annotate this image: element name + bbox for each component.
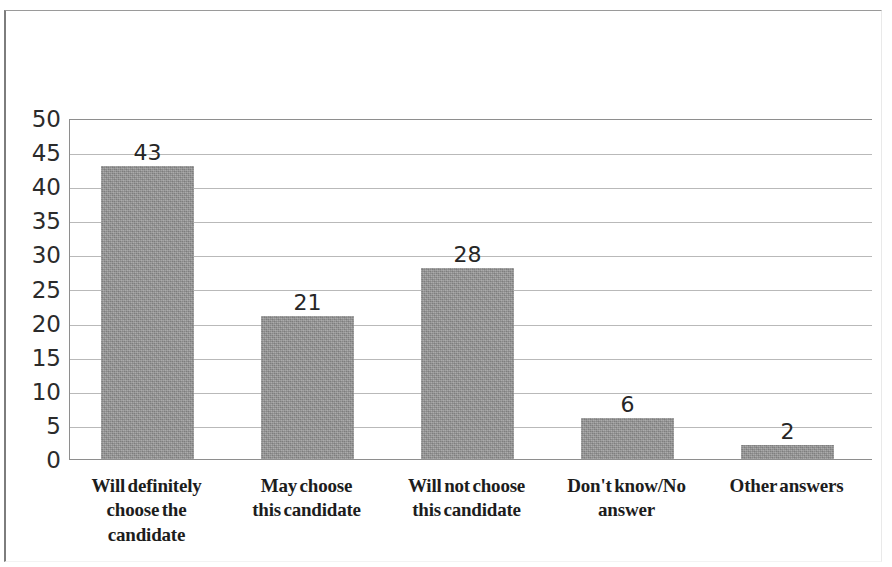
y-tick-label: 50 xyxy=(13,108,61,131)
x-axis-label: Will not choose this candidate xyxy=(406,474,527,523)
y-tick-label: 35 xyxy=(13,210,61,233)
bar-value-label: 6 xyxy=(581,394,674,416)
bar-value-label: 43 xyxy=(101,142,194,164)
y-tick-label: 45 xyxy=(13,142,61,165)
bar[interactable] xyxy=(101,166,194,459)
y-tick-label: 20 xyxy=(13,312,61,335)
x-axis-labels: Will definitely choose the candidate May… xyxy=(69,474,872,564)
x-axis-label: May choose this candidate xyxy=(246,474,367,523)
y-tick-label: 0 xyxy=(13,449,61,472)
x-axis-label: Don't know/No answer xyxy=(566,474,687,523)
bar-value-label: 2 xyxy=(741,421,834,443)
y-tick-label: 10 xyxy=(13,380,61,403)
chart-figure: 50 45 40 35 30 25 20 15 10 5 0 43 21 28 … xyxy=(0,0,892,567)
bar[interactable] xyxy=(741,445,834,459)
bar[interactable] xyxy=(261,316,354,459)
bar[interactable] xyxy=(581,418,674,459)
x-axis-label: Other answers xyxy=(726,474,847,498)
y-axis: 50 45 40 35 30 25 20 15 10 5 0 xyxy=(6,119,61,460)
plot-area: 43 21 28 6 2 xyxy=(69,119,872,460)
y-tick-label: 15 xyxy=(13,346,61,369)
bar[interactable] xyxy=(421,268,514,459)
y-tick-label: 5 xyxy=(13,414,61,437)
bar-value-label: 21 xyxy=(261,292,354,314)
bar-value-label: 28 xyxy=(421,244,514,266)
x-axis-label: Will definitely choose the candidate xyxy=(86,474,207,547)
y-tick-label: 30 xyxy=(13,244,61,267)
y-tick-label: 25 xyxy=(13,278,61,301)
y-tick-label: 40 xyxy=(13,176,61,199)
